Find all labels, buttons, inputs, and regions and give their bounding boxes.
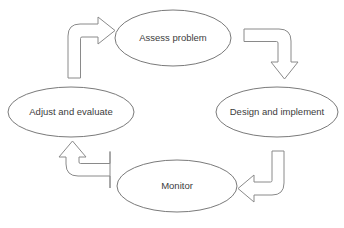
node-assess-problem[interactable]: Assess problem: [115, 10, 231, 66]
cycle-diagram-canvas: Assess problem Design and implement Moni…: [0, 0, 344, 228]
arrow-design-to-monitor: [238, 151, 284, 202]
node-design-and-implement-label: Design and implement: [230, 106, 325, 117]
node-monitor[interactable]: Monitor: [117, 160, 237, 212]
arrow-adjust-to-assess: [68, 17, 115, 78]
node-assess-problem-label: Assess problem: [139, 32, 207, 43]
node-monitor-label: Monitor: [161, 180, 193, 191]
node-adjust-and-evaluate-label: Adjust and evaluate: [29, 106, 112, 117]
cycle-diagram: Assess problem Design and implement Moni…: [0, 0, 344, 228]
arrow-assess-to-design: [244, 29, 298, 79]
node-design-and-implement[interactable]: Design and implement: [216, 87, 338, 137]
node-adjust-and-evaluate[interactable]: Adjust and evaluate: [8, 87, 134, 137]
arrow-monitor-to-adjust: [59, 141, 110, 188]
